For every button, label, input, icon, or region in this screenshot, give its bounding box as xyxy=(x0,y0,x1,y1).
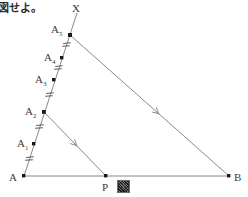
line-A5-B xyxy=(70,35,229,176)
label-A2-subscript: 2 xyxy=(33,112,37,120)
point-A1 xyxy=(32,142,35,145)
label-P: P xyxy=(102,181,108,193)
label-X: X xyxy=(72,2,80,14)
construction-diagram: A A 1 A 2 A 3 A 4 A 5 X P B xyxy=(0,0,248,197)
label-A5: A xyxy=(51,23,59,35)
line-A2-P xyxy=(44,112,106,176)
label-A4-subscript: 4 xyxy=(52,58,56,66)
point-A3 xyxy=(52,78,55,81)
label-A5-subscript: 5 xyxy=(59,30,63,38)
point-B xyxy=(227,174,230,177)
label-A3-subscript: 3 xyxy=(43,80,47,88)
point-P xyxy=(104,174,107,177)
label-A: A xyxy=(9,171,17,183)
point-A xyxy=(22,174,25,177)
geometry-figure-canvas: 図せよ。 xyxy=(0,0,248,197)
label-B: B xyxy=(234,171,241,183)
point-A4 xyxy=(60,56,63,59)
point-A2 xyxy=(42,110,46,114)
ray-AX xyxy=(24,13,77,176)
label-A4: A xyxy=(44,51,52,63)
label-A3: A xyxy=(35,73,43,85)
label-A1: A xyxy=(17,137,25,149)
artifact-badge xyxy=(117,180,130,193)
label-A2: A xyxy=(25,105,33,117)
label-A1-subscript: 1 xyxy=(25,144,29,152)
point-A5 xyxy=(68,33,72,37)
